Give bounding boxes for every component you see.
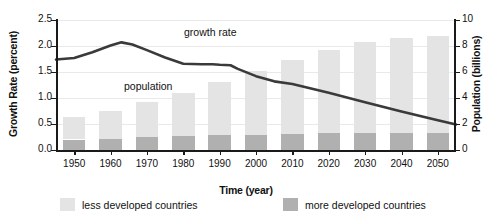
y-axis-right-line — [454, 19, 456, 151]
growth-rate-annotation: growth rate — [184, 26, 237, 38]
legend-label-less-developed: less developed countries — [82, 199, 198, 211]
x-axis-tick-label: 2020 — [309, 158, 349, 169]
x-axis-tick-label: 2050 — [418, 158, 458, 169]
x-axis-tick — [365, 151, 366, 155]
y-axis-left-tick-label: 2.0 — [0, 39, 52, 50]
x-axis-tick — [292, 151, 293, 155]
x-axis-tick — [256, 151, 257, 155]
y-axis-right-tick-label: 10 — [462, 13, 492, 24]
x-axis-tick-label: 2030 — [345, 158, 385, 169]
x-axis-tick — [220, 151, 221, 155]
x-axis-title: Time (year) — [0, 184, 492, 196]
chart-legend: less developed countries more developed … — [0, 198, 492, 218]
y-axis-right-tick — [455, 20, 460, 21]
legend-label-more-developed: more developed countries — [305, 199, 426, 211]
y-axis-left-tick-label: 1.5 — [0, 65, 52, 76]
x-axis-tick — [329, 151, 330, 155]
x-axis-tick — [147, 151, 148, 155]
growth-rate-line — [56, 20, 456, 151]
y-axis-right-title: Population (billions) — [470, 14, 482, 154]
x-axis-tick — [438, 151, 439, 155]
legend-swatch-less-developed — [60, 198, 75, 211]
y-axis-left-tick-label: 0.5 — [0, 117, 52, 128]
y-axis-right-tick — [455, 150, 460, 151]
chart-figure: Growth Rate (percent) Population (billio… — [0, 0, 492, 222]
y-axis-right-tick — [455, 72, 460, 73]
growth-rate-polyline — [56, 42, 456, 124]
x-axis-tick-label: 1990 — [200, 158, 240, 169]
y-axis-right-tick — [455, 124, 460, 125]
y-axis-right-tick-label: 2 — [462, 117, 492, 128]
y-axis-right-tick-label: 0 — [462, 143, 492, 154]
y-axis-right-tick-label: 4 — [462, 91, 492, 102]
plot-area: 0.00.51.01.52.02.5 0246810 1950196019701… — [56, 20, 456, 150]
x-axis-tick — [74, 151, 75, 155]
y-axis-right-tick-label: 6 — [462, 65, 492, 76]
y-axis-left-title: Growth Rate (percent) — [7, 14, 19, 154]
legend-item-more-developed: more developed countries — [283, 198, 426, 211]
x-axis-tick-label: 2000 — [236, 158, 276, 169]
legend-item-less-developed: less developed countries — [60, 198, 198, 211]
y-axis-left-line — [56, 19, 58, 151]
y-axis-left-tick-label: 2.5 — [0, 13, 52, 24]
x-axis-tick-label: 1960 — [91, 158, 131, 169]
x-axis-tick — [111, 151, 112, 155]
x-axis-tick-label: 2010 — [272, 158, 312, 169]
x-axis-tick — [183, 151, 184, 155]
x-axis-tick — [402, 151, 403, 155]
x-axis-tick-label: 2040 — [382, 158, 422, 169]
x-axis-tick-label: 1970 — [127, 158, 167, 169]
y-axis-right-tick-label: 8 — [462, 39, 492, 50]
legend-swatch-more-developed — [283, 198, 298, 211]
population-annotation: population — [124, 80, 172, 92]
y-axis-right-tick — [455, 98, 460, 99]
y-axis-left-tick-label: 1.0 — [0, 91, 52, 102]
x-axis-tick-label: 1980 — [163, 158, 203, 169]
x-axis-tick-label: 1950 — [54, 158, 94, 169]
y-axis-right-tick — [455, 46, 460, 47]
y-axis-left-tick-label: 0.0 — [0, 143, 52, 154]
